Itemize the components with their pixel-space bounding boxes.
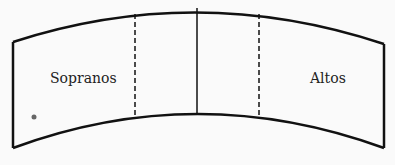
- dot-mark: [32, 115, 37, 120]
- label-altos: Altos: [310, 70, 346, 86]
- outer-arc: [13, 12, 384, 44]
- inner-arc: [13, 114, 384, 148]
- label-sopranos: Sopranos: [50, 70, 117, 86]
